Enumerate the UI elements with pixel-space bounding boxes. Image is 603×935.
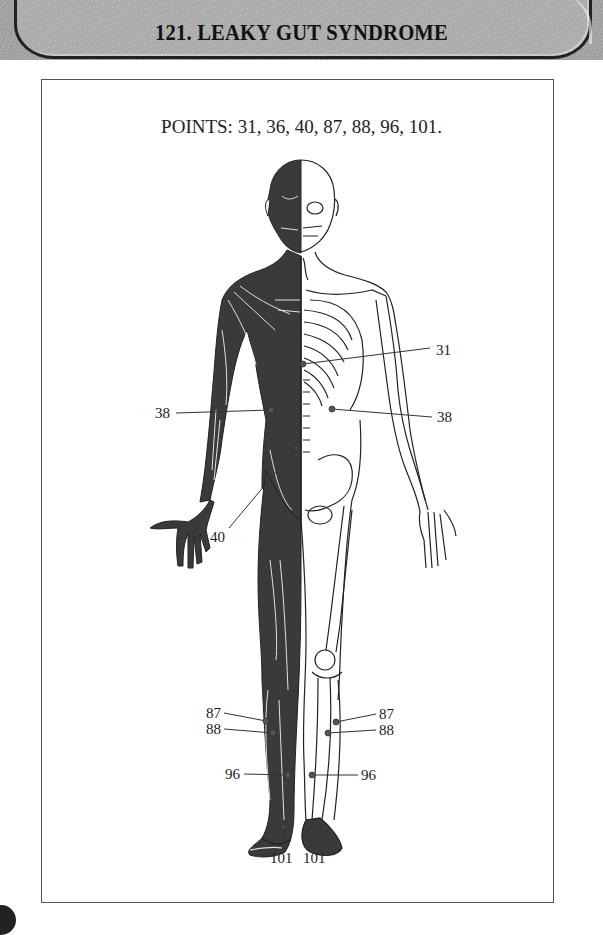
- label-31: 31: [436, 342, 451, 358]
- label-40: 40: [210, 529, 225, 545]
- point-88-left: [270, 730, 276, 736]
- point-96-left: [285, 772, 291, 778]
- label-88-left: 88: [206, 721, 221, 737]
- point-38-right: [329, 406, 335, 412]
- label-96-left: 96: [225, 766, 241, 782]
- point-87-right: [333, 719, 339, 725]
- label-101-left: 101: [270, 850, 293, 866]
- label-87-left: 87: [206, 705, 222, 721]
- point-labels: 31 38 38 40 87 88 87 88 96 96 101 101: [155, 342, 452, 866]
- label-38-right: 38: [437, 409, 452, 425]
- point-96-right: [309, 772, 315, 778]
- point-40: [294, 446, 298, 450]
- label-101-right: 101: [303, 850, 326, 866]
- point-88-right: [325, 730, 331, 736]
- point-87-left: [263, 718, 269, 724]
- label-38-left: 38: [155, 405, 170, 421]
- point-31: [300, 361, 306, 367]
- muscle-half: [150, 160, 301, 857]
- point-38-left: [268, 407, 274, 413]
- point-101-left: [281, 825, 285, 829]
- label-88-right: 88: [379, 722, 394, 738]
- label-96-right: 96: [361, 767, 377, 783]
- label-87-right: 87: [379, 706, 395, 722]
